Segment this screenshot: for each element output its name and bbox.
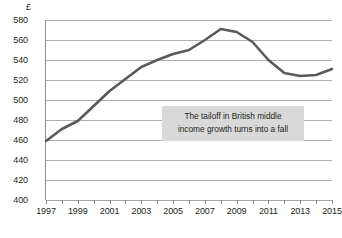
x-axis-tick-label: 1999 bbox=[68, 206, 88, 216]
x-axis-tick-label: 2009 bbox=[227, 206, 247, 216]
x-axis-tick-label: 2001 bbox=[100, 206, 120, 216]
x-axis-tick-label: 2011 bbox=[259, 206, 278, 216]
annotation-line-1: The tailoff in British middle bbox=[168, 110, 298, 123]
x-axis-tick-label: 1997 bbox=[36, 206, 56, 216]
x-axis-tick-label: 2005 bbox=[163, 206, 183, 216]
x-axis-tick-label: 2013 bbox=[290, 206, 310, 216]
chart-annotation-callout: The tailoff in British middle income gro… bbox=[162, 106, 304, 141]
x-axis-tick-label: 2015 bbox=[322, 206, 342, 216]
x-axis-tick-label: 2003 bbox=[132, 206, 152, 216]
x-axis-tick-label: 2007 bbox=[195, 206, 215, 216]
annotation-line-2: income growth turns into a fall bbox=[168, 123, 298, 136]
